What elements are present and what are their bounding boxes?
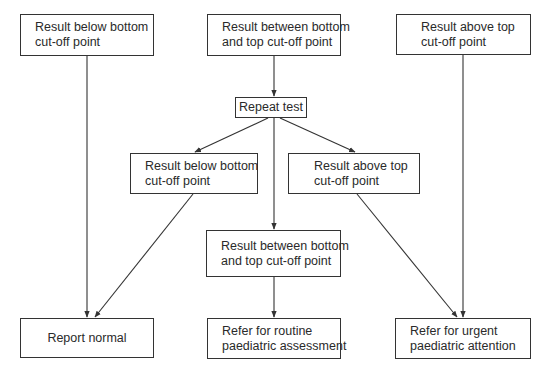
node-text: Result above top (421, 20, 530, 35)
node-report-normal: Report normal (20, 318, 154, 358)
node-text: Result below bottom (35, 20, 153, 35)
node-text: Result above top (314, 159, 419, 174)
edge-mid-above-to-refer-urgent (357, 194, 457, 317)
node-result-between-mid: Result between bottom and top cut-off po… (206, 230, 341, 277)
node-text: paediatric assessment (222, 339, 340, 354)
node-text: Repeat test (239, 100, 303, 115)
node-text: Refer for urgent (410, 324, 530, 339)
node-text: Result between bottom (221, 239, 340, 254)
node-text: cut-off point (421, 35, 530, 50)
node-text: Report normal (47, 331, 126, 346)
node-repeat-test: Repeat test (235, 97, 307, 118)
node-text: cut-off point (35, 35, 153, 50)
edge-mid-below-to-report-normal (95, 194, 193, 317)
node-text: paediatric attention (410, 339, 530, 354)
node-result-between-top: Result between bottom and top cut-off po… (207, 14, 341, 56)
node-result-above-top-mid: Result above top cut-off point (288, 153, 420, 194)
node-result-below-bottom-mid: Result below bottom cut-off point (130, 153, 258, 194)
node-text: and top cut-off point (222, 35, 340, 50)
node-text: and top cut-off point (221, 254, 340, 269)
node-text: Result below bottom (145, 159, 257, 174)
node-refer-routine: Refer for routine paediatric assessment (207, 318, 341, 359)
node-text: cut-off point (314, 174, 419, 189)
node-text: Result between bottom (222, 20, 340, 35)
node-refer-urgent: Refer for urgent paediatric attention (395, 318, 531, 359)
node-text: Refer for routine (222, 324, 340, 339)
node-result-below-bottom-top: Result below bottom cut-off point (20, 14, 154, 56)
edge-repeat-to-mid-above (280, 118, 355, 152)
node-result-above-top-top: Result above top cut-off point (396, 14, 531, 55)
edge-repeat-to-mid-below (195, 118, 268, 152)
node-text: cut-off point (145, 174, 257, 189)
